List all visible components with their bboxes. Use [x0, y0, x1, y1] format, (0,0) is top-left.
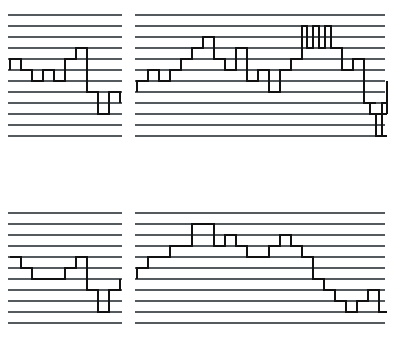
panel-bottom-left-canvas	[8, 208, 126, 336]
gridlines-top-right	[135, 15, 385, 136]
panel-top-left-canvas	[8, 10, 126, 146]
panel-bottom-right-canvas	[135, 208, 389, 336]
panel-row-top	[0, 10, 394, 150]
walk-path-bottom-left	[10, 257, 120, 312]
panel-top-right	[135, 10, 389, 146]
panel-row-bottom	[0, 208, 394, 338]
figure-root	[0, 0, 394, 356]
caption-strip	[0, 340, 394, 356]
panel-top-left	[8, 10, 126, 146]
panel-bottom-right	[135, 208, 389, 336]
panel-bottom-left	[8, 208, 126, 336]
panel-top-right-canvas	[135, 10, 389, 146]
gridlines-bottom-right	[135, 213, 385, 323]
